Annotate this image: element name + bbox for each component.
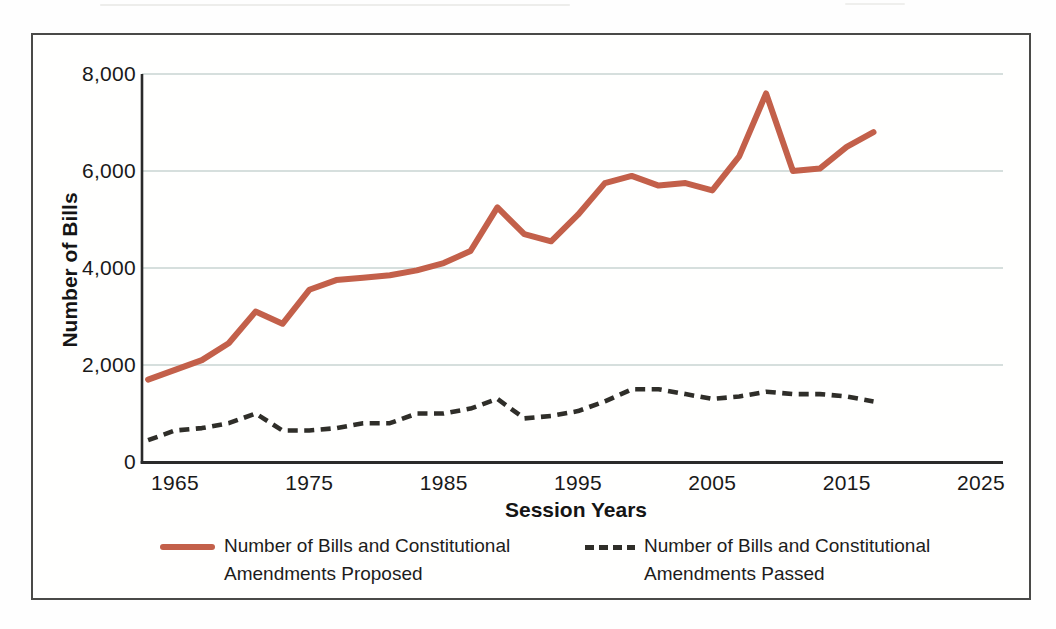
- page: { "figure": { "background": "#fffffe", "…: [0, 0, 1056, 629]
- x-tick-label: 2025: [936, 471, 1026, 495]
- passed-line: [148, 389, 873, 440]
- legend-label-proposed: Number of Bills and Constitutional Amend…: [224, 532, 510, 588]
- legend-label-proposed-line1: Number of Bills and Constitutional: [224, 535, 510, 556]
- y-tick-label: 0: [58, 450, 136, 474]
- x-tick-label: 1965: [130, 471, 220, 495]
- x-tick-label: 1975: [264, 471, 354, 495]
- legend-label-passed-line2: Amendments Passed: [644, 563, 825, 584]
- x-tick-label: 2015: [802, 471, 892, 495]
- y-tick-label: 2,000: [58, 353, 136, 377]
- legend-label-proposed-line2: Amendments Proposed: [224, 563, 423, 584]
- x-tick-label: 1995: [533, 471, 623, 495]
- y-axis-title: Number of Bills: [58, 192, 82, 347]
- y-tick-label: 8,000: [58, 62, 136, 86]
- proposed-line: [148, 93, 873, 379]
- legend-entry-passed: Number of Bills and Constitutional Amend…: [585, 532, 930, 588]
- x-tick-label: 2005: [667, 471, 757, 495]
- legend-entry-proposed: Number of Bills and Constitutional Amend…: [160, 532, 510, 588]
- y-tick-label: 6,000: [58, 159, 136, 183]
- x-tick-label: 1985: [399, 471, 489, 495]
- legend-label-passed: Number of Bills and Constitutional Amend…: [644, 532, 930, 588]
- x-axis-title: Session Years: [505, 498, 647, 522]
- legend-label-passed-line1: Number of Bills and Constitutional: [644, 535, 930, 556]
- passed-line-swatch: [585, 545, 635, 550]
- proposed-line-swatch: [160, 544, 215, 550]
